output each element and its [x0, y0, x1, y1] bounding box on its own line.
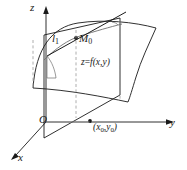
axis-label-y: y — [170, 117, 175, 128]
surface-tangent-diagram-svg — [0, 0, 187, 170]
tangent-line-label-subscript: 1 — [55, 37, 59, 46]
tangent-line-label: l1 — [52, 33, 59, 46]
point-m0-label-subscript: 0 — [88, 37, 92, 46]
figure-container: z y x O l1 M0 z=f(x,y) (x0,y0) — [0, 0, 187, 170]
axis-label-x: x — [18, 152, 23, 163]
base-point-label: (x0,y0) — [93, 123, 117, 134]
z-axis-arrowhead — [43, 6, 49, 14]
origin-label: O — [39, 114, 47, 125]
point-m0-label-base: M — [79, 32, 88, 44]
surface-equation-label: z=f(x,y) — [81, 58, 110, 68]
point-m0-label: M0 — [79, 33, 92, 46]
axis-label-z: z — [30, 2, 34, 13]
base-point-close: ) — [114, 122, 117, 132]
surface-equation-arguments: (x,y) — [93, 57, 110, 67]
